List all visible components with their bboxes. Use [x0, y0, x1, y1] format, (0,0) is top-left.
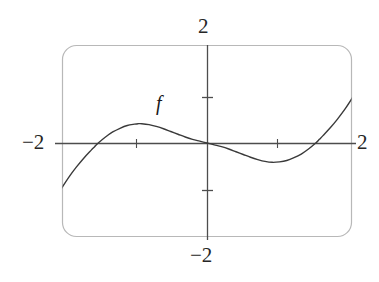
- y-axis-min-label: −2: [190, 245, 212, 266]
- x-axis-min-label: −2: [22, 132, 44, 153]
- y-axis-max-label: 2: [198, 16, 209, 37]
- graph-figure: 2 −2 2 −2 f: [0, 0, 379, 282]
- x-axis-max-label: 2: [357, 132, 368, 153]
- plot-canvas: [0, 0, 379, 282]
- function-name-label: f: [156, 93, 162, 113]
